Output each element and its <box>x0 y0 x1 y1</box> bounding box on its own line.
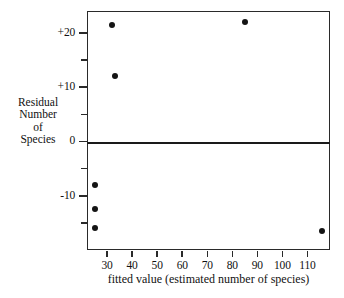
y-axis-title-line: Residual <box>4 96 72 108</box>
y-tick-label-10: +10 <box>29 81 75 92</box>
x-tick-90 <box>257 251 258 257</box>
y-tick-label-20: +20 <box>29 27 75 38</box>
y-tick-10 <box>79 86 87 88</box>
plot-frame <box>87 11 330 250</box>
data-point <box>242 19 248 25</box>
x-tick-80 <box>232 251 233 257</box>
y-tick--10 <box>79 195 87 197</box>
x-axis-title: fitted value (estimated number of specie… <box>87 272 330 287</box>
residual-scatter-plot-figure: +20+100-10 30405060708090100110 Residual… <box>0 0 344 298</box>
x-tick-label-110: 110 <box>290 259 324 271</box>
x-tick-110 <box>307 251 308 257</box>
x-tick-40 <box>131 251 132 257</box>
y-axis-title-line: of <box>4 121 72 133</box>
y-tick-20 <box>79 32 87 34</box>
x-tick-30 <box>106 251 107 257</box>
y-tick-5 <box>81 114 87 115</box>
y-axis-title-line: Species <box>4 133 72 145</box>
y-tick-label--10: -10 <box>29 190 75 201</box>
y-tick--15 <box>81 222 87 223</box>
y-tick-0 <box>79 141 87 143</box>
data-point <box>92 225 98 231</box>
x-tick-50 <box>156 251 157 257</box>
y-tick--5 <box>81 168 87 169</box>
x-tick-100 <box>282 251 283 257</box>
y-axis-title-line: Number <box>4 108 72 120</box>
y-axis-title: ResidualNumberofSpecies <box>4 96 72 146</box>
data-point <box>112 73 118 79</box>
data-point <box>109 22 115 28</box>
zero-reference-line <box>87 142 330 144</box>
data-point <box>92 206 98 212</box>
x-tick-70 <box>207 251 208 257</box>
y-tick-15 <box>81 59 87 60</box>
data-point <box>92 182 98 188</box>
x-tick-60 <box>181 251 182 257</box>
